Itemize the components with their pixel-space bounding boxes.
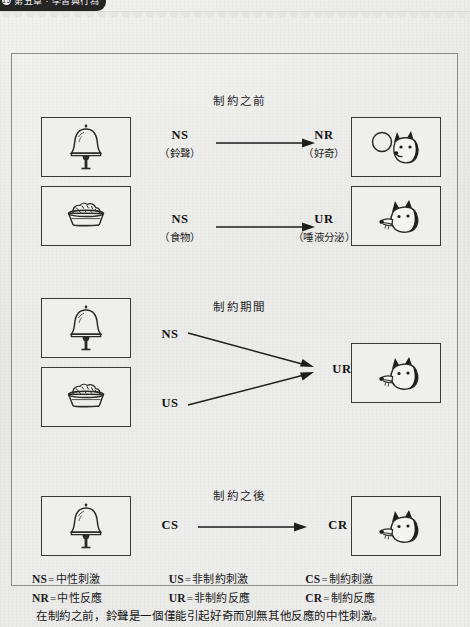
legend-equals: = xyxy=(187,592,193,604)
legend-text: 非制約反應 xyxy=(194,592,250,604)
legend-code: CS xyxy=(305,573,320,585)
picture-box-bell-before xyxy=(41,117,131,177)
chapter-number-badge: 15 xyxy=(2,0,11,5)
legend-equals: = xyxy=(48,573,54,585)
term-zh: （食物） xyxy=(148,229,212,244)
dog-salivating-illustration xyxy=(369,506,423,546)
legend-text: 制約刺激 xyxy=(329,573,374,585)
term-abbr: NS xyxy=(148,212,212,227)
dog-curious-illustration xyxy=(367,126,425,168)
legend-row-stimuli: NS=中性刺激 US=非制約刺激 CS=制約刺激 xyxy=(32,570,442,586)
legend-code: CR xyxy=(305,592,322,604)
legend-equals: = xyxy=(50,592,56,604)
stage-title-before: 制約之前 xyxy=(160,92,320,108)
term-abbr: NR xyxy=(292,128,356,143)
picture-box-dog-saliva-2 xyxy=(351,343,441,403)
term-abbr: US xyxy=(148,396,192,411)
legend-equals: = xyxy=(323,592,329,604)
legend-equals: = xyxy=(185,573,191,585)
legend-item-nr: NR=中性反應 xyxy=(32,589,169,605)
legend-item-ur: UR=非制約反應 xyxy=(169,589,306,605)
food-bowl-illustration xyxy=(60,201,112,231)
figure-caption: 在制約之前，鈴聲是一個僅能引起好奇而別無其他反應的中性刺激。 xyxy=(36,607,456,623)
legend: NS=中性刺激 US=非制約刺激 CS=制約刺激 NR=中性反應 UR=非制約反… xyxy=(32,570,442,608)
bell-illustration xyxy=(63,304,109,352)
term-us-during: US xyxy=(148,396,192,411)
food-bowl-illustration xyxy=(60,382,112,412)
picture-box-food-before xyxy=(41,186,131,246)
legend-code: NR xyxy=(32,592,49,604)
dog-salivating-illustration xyxy=(369,196,423,236)
chapter-tab: 15第五章 · 學習與行為 xyxy=(0,0,106,11)
legend-row-responses: NR=中性反應 UR=非制約反應 CR=制約反應 xyxy=(32,589,442,605)
term-nr-curious: NR （好奇） xyxy=(292,128,356,160)
chapter-tab-label: 第五章 · 學習與行為 xyxy=(14,0,100,6)
arrow-cs-to-cr xyxy=(198,522,308,532)
term-abbr: NS xyxy=(148,128,212,143)
term-ns-bell: NS （鈴聲） xyxy=(148,128,212,160)
term-abbr: CS xyxy=(148,518,192,533)
legend-item-cs: CS=制約刺激 xyxy=(305,570,442,586)
term-abbr: NS xyxy=(148,327,192,342)
bell-illustration xyxy=(63,123,109,171)
legend-item-ns: NS=中性刺激 xyxy=(32,570,169,586)
term-cs-after: CS xyxy=(148,518,192,533)
bell-illustration xyxy=(63,502,109,550)
term-ns-food: NS （食物） xyxy=(148,212,212,244)
term-ns-during: NS xyxy=(148,327,192,342)
picture-box-dog-saliva-1 xyxy=(351,186,441,246)
picture-box-food-during xyxy=(41,367,131,427)
legend-code: NS xyxy=(32,573,47,585)
legend-code: US xyxy=(169,573,184,585)
picture-box-bell-after xyxy=(41,496,131,556)
header-scallop-decoration xyxy=(0,12,470,24)
legend-code: UR xyxy=(169,592,186,604)
picture-box-bell-during xyxy=(41,298,131,358)
picture-box-dog-curious xyxy=(351,117,441,177)
legend-text: 中性反應 xyxy=(57,592,102,604)
legend-text: 非制約刺激 xyxy=(192,573,248,585)
legend-equals: = xyxy=(321,573,327,585)
arrow-converging-ns-us-to-ur xyxy=(188,330,318,408)
legend-item-cr: CR=制約反應 xyxy=(305,589,442,605)
legend-text: 制約反應 xyxy=(331,592,376,604)
dog-salivating-illustration xyxy=(369,353,423,393)
legend-item-us: US=非制約刺激 xyxy=(169,570,306,586)
term-zh: （鈴聲） xyxy=(148,145,212,160)
picture-box-dog-saliva-3 xyxy=(351,496,441,556)
term-zh: （好奇） xyxy=(292,145,356,160)
legend-text: 中性刺激 xyxy=(56,573,101,585)
stage-title-after: 制約之後 xyxy=(160,487,320,503)
stage-title-during: 制約期間 xyxy=(160,298,320,314)
